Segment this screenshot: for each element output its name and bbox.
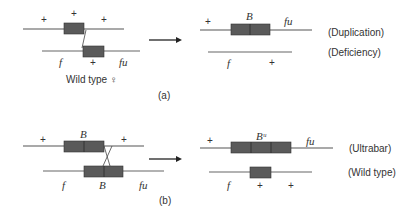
marker-f: f <box>227 180 230 191</box>
arrow-icon <box>149 37 182 43</box>
panel-b-left-chromosomes <box>23 141 164 177</box>
panel-b-label: (b) <box>159 196 171 206</box>
duplication-label: (Duplication) <box>328 28 384 38</box>
marker-f: f <box>59 57 62 68</box>
wild-type-female-caption: Wild type ♀ <box>66 75 117 85</box>
panel-a-label: (a) <box>158 91 170 101</box>
marker-B-ultrabar: Bᵘ <box>256 131 266 142</box>
marker-f: f <box>62 180 65 191</box>
marker-plus: + <box>121 135 127 145</box>
marker-plus: + <box>288 181 294 191</box>
marker-plus: + <box>71 9 77 19</box>
panel-a-left-chromosomes <box>23 23 140 57</box>
marker-fu: fu <box>119 57 128 68</box>
marker-plus: + <box>40 135 46 145</box>
marker-plus: + <box>205 17 211 27</box>
marker-f: f <box>227 58 230 69</box>
marker-plus: + <box>90 58 96 68</box>
marker-fu: fu <box>139 180 148 191</box>
deficiency-label: (Deficiency) <box>328 48 381 58</box>
marker-plus: + <box>101 15 107 25</box>
marker-plus: + <box>269 58 275 68</box>
arrow-icon <box>149 156 182 162</box>
panel-b-right-chromosomes <box>200 142 333 178</box>
marker-plus: + <box>207 136 213 146</box>
marker-B: B <box>99 180 106 191</box>
marker-fu: fu <box>284 16 293 27</box>
panel-a-right-chromosomes <box>200 24 312 52</box>
ultrabar-label: (Ultrabar) <box>349 144 391 154</box>
marker-plus: + <box>257 181 263 191</box>
marker-fu: fu <box>306 136 315 147</box>
marker-plus: + <box>41 15 47 25</box>
marker-B: B <box>80 129 87 140</box>
marker-B: B <box>246 11 253 22</box>
wild-type-label: (Wild type) <box>348 168 396 178</box>
